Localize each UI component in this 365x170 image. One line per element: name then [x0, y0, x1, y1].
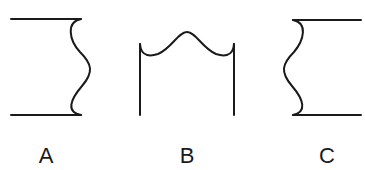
figure-b-shape: [140, 32, 234, 115]
figure-b-wavy-edge: [140, 32, 234, 55]
figure-a-shape: [11, 19, 90, 115]
figure-b-label: B: [180, 143, 195, 169]
figure-a-label: A: [39, 143, 54, 169]
figure-c-wavy-edge: [284, 20, 303, 115]
figure-c-label: C: [319, 143, 335, 169]
figure-c-shape: [284, 20, 361, 115]
figure-a-wavy-edge: [71, 19, 90, 115]
